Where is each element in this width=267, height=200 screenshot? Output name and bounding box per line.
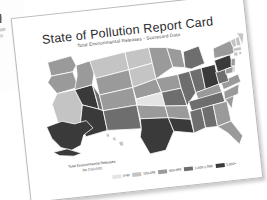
legend-item[interactable]: 500-999 — [158, 168, 181, 174]
underlying-page-shape — [0, 12, 3, 24]
state-CT[interactable] — [234, 52, 238, 56]
report-card-body: State of Pollution Report Card Total Env… — [17, 0, 256, 196]
state-AK-aleutians[interactable] — [53, 147, 82, 158]
state-HI[interactable] — [112, 136, 116, 140]
state-HI[interactable] — [106, 133, 110, 137]
state-HI[interactable] — [119, 141, 125, 147]
legend-item[interactable]: 100-499 — [132, 170, 155, 176]
legend-label: 2,000+ — [226, 162, 237, 167]
legend-label: 1,000-1,999 — [194, 164, 212, 170]
state-RI[interactable] — [239, 51, 242, 54]
legend-swatch — [184, 166, 193, 171]
legend-label: 100-499 — [143, 170, 156, 175]
state-MI[interactable] — [183, 46, 205, 70]
legend-swatch — [215, 163, 224, 168]
legend-item[interactable]: 0-99 — [112, 173, 130, 179]
us-choropleth-map[interactable] — [27, 31, 256, 172]
legend-swatch — [158, 169, 167, 174]
report-card[interactable]: State of Pollution Report Card Total Env… — [11, 0, 264, 200]
legend-swatch — [112, 174, 121, 179]
legend-item[interactable]: 2,000+ — [215, 162, 236, 168]
legend-label: 500-999 — [169, 168, 182, 173]
state-NJ[interactable] — [230, 58, 236, 66]
underlying-page-textline — [0, 34, 3, 38]
underlying-page-textline — [0, 28, 6, 32]
legend-label: 0-99 — [123, 173, 130, 178]
legend-item[interactable]: 1,000-1,999 — [184, 164, 213, 171]
legend-swatch — [132, 172, 141, 177]
us-map-svg — [27, 31, 256, 172]
